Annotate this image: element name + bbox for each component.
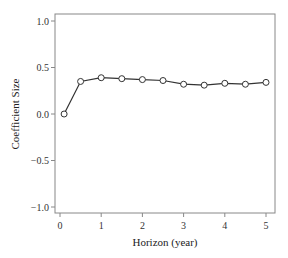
data-point-marker: [181, 81, 187, 87]
x-tick-label: 2: [140, 220, 145, 231]
y-tick-label: 0.0: [37, 109, 50, 120]
data-point-marker: [78, 78, 84, 84]
plot-border: [55, 14, 275, 213]
x-tick-label: 3: [181, 220, 186, 231]
data-point-marker: [263, 79, 269, 85]
y-axis-title: Coefficient Size: [9, 78, 21, 149]
data-point-marker: [222, 80, 228, 86]
x-tick-label: 4: [222, 220, 227, 231]
x-tick-label: 5: [264, 220, 269, 231]
data-point-marker: [160, 78, 166, 84]
data-series: [61, 75, 269, 117]
y-tick-label: 1.0: [37, 16, 50, 27]
data-point-marker: [242, 81, 248, 87]
line-chart: 1.00.50.0−0.5−1.0 012345 Horizon (year) …: [0, 0, 288, 258]
x-tick-label: 1: [99, 220, 104, 231]
y-tick-label: −0.5: [31, 155, 49, 166]
data-point-marker: [98, 75, 104, 81]
y-axis: 1.00.50.0−0.5−1.0: [31, 16, 55, 213]
x-axis: 012345: [58, 213, 269, 231]
data-point-marker: [139, 77, 145, 83]
plot-frame: [55, 14, 275, 213]
y-tick-label: 0.5: [37, 62, 50, 73]
data-point-marker: [119, 76, 125, 82]
x-tick-label: 0: [58, 220, 63, 231]
y-tick-label: −1.0: [31, 202, 49, 213]
x-axis-title: Horizon (year): [132, 236, 197, 249]
data-point-marker: [61, 111, 67, 117]
data-point-marker: [201, 82, 207, 88]
